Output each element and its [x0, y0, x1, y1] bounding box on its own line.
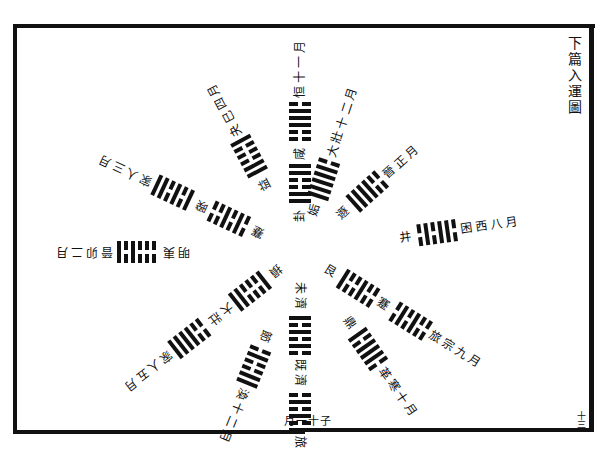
- hexagram-name-label: 恒: [293, 83, 307, 98]
- hexagram-symbol: [150, 174, 195, 210]
- yang-line: [289, 116, 311, 120]
- hexagram-name-label: 明夷: [160, 245, 190, 259]
- page-title: 下篇入運圖: [566, 36, 582, 116]
- hexagram-symbol: [207, 201, 252, 237]
- yin-line: [289, 137, 311, 141]
- page-frame-bottom-left: [13, 430, 305, 434]
- page-frame-left: [13, 24, 17, 434]
- page-frame-top: [13, 24, 595, 28]
- hexagram-symbol: [348, 327, 388, 372]
- hexagram-symbol: [230, 134, 268, 179]
- page-frame-bottom-right: [304, 428, 594, 432]
- yang-line: [289, 344, 311, 348]
- yin-line: [145, 241, 149, 263]
- yin-line: [289, 323, 311, 327]
- hexagram-name-label: 既濟: [293, 359, 307, 389]
- month-label: 十一月: [293, 38, 307, 83]
- yin-line: [289, 393, 311, 397]
- yin-line: [451, 219, 458, 241]
- page-frame-right: [589, 24, 594, 432]
- hexagram-symbol: [289, 316, 311, 355]
- hexagram-name-label: 艮: [322, 262, 342, 282]
- month-label: 三月: [94, 151, 127, 176]
- hexagram-name-label: 益: [254, 174, 273, 194]
- hexagram-symbol: [345, 170, 389, 212]
- yin-line: [289, 407, 311, 411]
- yang-line: [423, 223, 430, 245]
- yang-line: [289, 428, 311, 432]
- month-label: 十二月: [334, 83, 361, 130]
- hexagram-symbol: [117, 241, 156, 263]
- hexagram-name-label: 蹇: [247, 222, 267, 241]
- hexagram-name-label: 鼎: [340, 314, 360, 334]
- yang-line: [289, 123, 311, 127]
- yin-line: [289, 102, 311, 106]
- month-label: 巳四月: [204, 79, 237, 125]
- hexagram-symbol: [307, 157, 340, 201]
- yang-line: [289, 400, 311, 404]
- yang-line: [289, 171, 311, 175]
- month-label: 正月: [391, 140, 423, 170]
- yang-line: [289, 414, 311, 418]
- month-label: 五月: [119, 366, 151, 396]
- yin-line: [289, 337, 311, 341]
- hexagram-name-label: 損: [264, 262, 284, 282]
- hexagram-name-label: 咸: [293, 145, 307, 160]
- hexagram-name-label: 家人: [121, 164, 154, 189]
- hexagram-symbol: [416, 219, 458, 246]
- yang-line: [289, 316, 311, 320]
- yin-line: [289, 178, 311, 182]
- month-label: 卯二月: [53, 245, 98, 259]
- hexagram-name-label: 節: [256, 328, 275, 347]
- hexagram-symbol: [228, 270, 272, 311]
- yang-line: [289, 164, 311, 168]
- page-number: 十三: [576, 411, 585, 429]
- yang-line: [437, 221, 444, 243]
- hexagram-name-label: 大壯: [324, 126, 347, 159]
- hexagram-name-label: 未濟: [293, 282, 307, 312]
- hexagram-name-label: 晉: [98, 245, 113, 259]
- hexagram-name-label: 蹇: [374, 295, 394, 315]
- hexagram-name-label: 暌: [191, 196, 211, 215]
- hexagram-symbol: [236, 344, 271, 388]
- hexagram-name-label: 遯: [334, 202, 355, 222]
- yin-line: [289, 351, 311, 355]
- hexagram-name-label: 大壯: [203, 300, 235, 330]
- hexagram-name-label: 井: [398, 229, 415, 245]
- yin-line: [138, 241, 142, 263]
- yin-line: [152, 241, 156, 263]
- yin-line: [430, 222, 437, 244]
- yang-line: [289, 330, 311, 334]
- month-label: 宗九月: [440, 336, 486, 372]
- yang-line: [117, 241, 121, 263]
- yin-line: [289, 185, 311, 189]
- yang-line: [131, 241, 135, 263]
- yang-line: [444, 220, 451, 242]
- month-label: 西八月: [474, 214, 521, 234]
- hexagram-symbol: [336, 269, 381, 308]
- yin-line: [289, 130, 311, 134]
- yin-line: [289, 421, 311, 425]
- hexagram-symbol: [388, 301, 433, 340]
- hexagram-symbol: [289, 102, 311, 141]
- yin-line: [416, 224, 423, 246]
- month-label: 十二月: [216, 400, 246, 447]
- hexagram-name-label: 旅: [293, 436, 307, 451]
- hexagram-symbol: [167, 318, 211, 359]
- yin-line: [124, 241, 128, 263]
- yang-line: [289, 109, 311, 113]
- month-label: 寒十月: [384, 377, 421, 422]
- hexagram-symbol: [289, 393, 311, 432]
